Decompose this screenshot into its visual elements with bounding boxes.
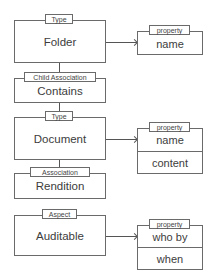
folder-label: Folder (44, 36, 77, 48)
document-label: Document (34, 133, 86, 145)
document-stereotype-tag: Type (45, 111, 73, 121)
folder-properties-stereotype-tag: property (149, 25, 190, 35)
auditable-label: Auditable (36, 230, 84, 242)
rendition-label: Rendition (36, 180, 85, 192)
folder-stereotype-tag: Type (45, 14, 73, 24)
auditable-node: Auditable (14, 215, 106, 256)
rendition-stereotype-tag: Association (30, 167, 90, 177)
document-node: Document (14, 117, 106, 160)
document-rendition-connector (59, 160, 60, 167)
property-item: when (137, 248, 203, 269)
contains-stereotype-tag: Child Association (24, 72, 96, 82)
folder-node: Folder (14, 20, 106, 63)
auditable-stereotype-tag: Aspect (42, 209, 77, 219)
auditable-properties-stereotype-tag: property (149, 219, 190, 229)
property-item: who by (137, 226, 203, 247)
folder-contains-connector (59, 63, 60, 72)
property-item: name (137, 33, 203, 55)
document-properties-stereotype-tag: property (149, 122, 190, 132)
property-item: name (137, 129, 203, 151)
contains-label: Contains (37, 85, 82, 97)
property-item: content (137, 152, 203, 173)
